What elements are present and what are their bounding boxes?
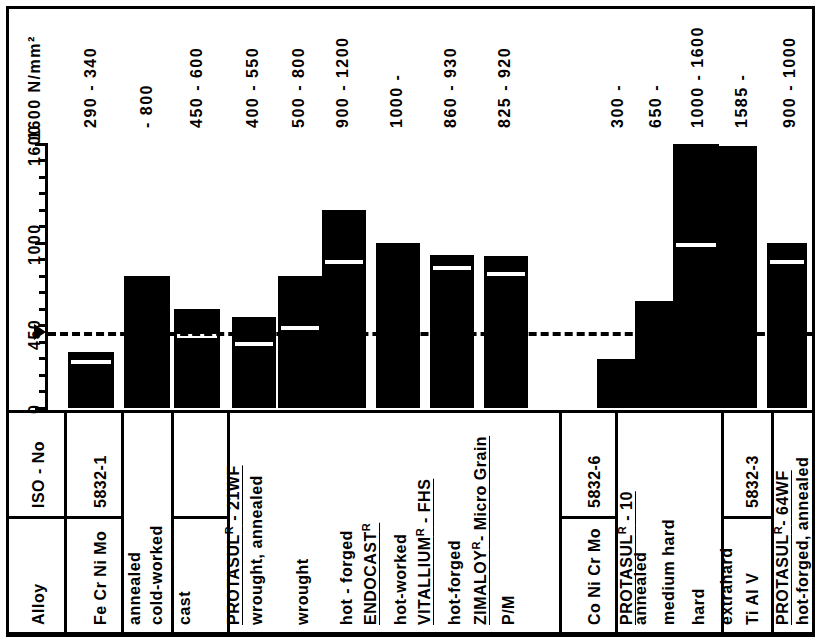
- y-axis-minor-tick: [39, 374, 48, 377]
- iso-number: 5832-3: [745, 455, 761, 508]
- bar: [597, 359, 635, 409]
- y-axis-minor-tick: [39, 357, 48, 360]
- table-col-divider: [171, 410, 174, 635]
- iso-number: 5832-1: [93, 455, 109, 508]
- bar: [673, 144, 719, 408]
- table-row-divider: [559, 516, 615, 519]
- bar-lower-bound-mark: [676, 243, 716, 247]
- bar: [635, 301, 673, 408]
- condition-label: hot-forged, annealed: [795, 457, 811, 625]
- bar: [767, 243, 807, 408]
- condition-label: hot-forged: [447, 540, 463, 625]
- brand-name: ENDOCASTR: [361, 523, 379, 625]
- condition-label: medium hard: [661, 519, 677, 625]
- y-axis-minor-tick: [39, 209, 48, 212]
- bar: [174, 309, 220, 408]
- condition-label: cast: [177, 591, 193, 625]
- y-axis-tick-label: 1600: [26, 124, 44, 166]
- bar: [322, 210, 366, 408]
- y-axis-minor-tick: [39, 291, 48, 294]
- condition-label: P/M: [501, 595, 517, 625]
- y-axis-minor-tick: [39, 176, 48, 179]
- condition-label: wrought: [295, 558, 311, 625]
- bar-lower-bound-mark: [71, 360, 111, 364]
- bar-lower-bound-mark: [487, 272, 525, 276]
- alloy-condition-table: ISO - NoAlloy5832-15832-65832-3Fe Cr Ni …: [9, 410, 812, 635]
- brand-name: PROTASULR - 21WF: [224, 465, 242, 625]
- iso-number: 5832-6: [587, 455, 603, 508]
- bar-lower-bound-mark: [433, 266, 471, 270]
- table-top-rule: [9, 410, 812, 413]
- table-bottom-rule: [9, 632, 812, 635]
- y-axis-minor-tick: [39, 390, 48, 393]
- condition-label: hot - forged: [339, 530, 355, 625]
- bar: [124, 276, 170, 408]
- alloy-name: Ti Al V: [745, 573, 761, 625]
- bar: [376, 243, 420, 408]
- table-col-divider: [121, 410, 124, 635]
- table-row-divider: [171, 516, 227, 519]
- bar-chart-plot: [48, 140, 813, 410]
- table-row-divider: [721, 516, 771, 519]
- row-header-iso-no: ISO - No: [31, 441, 47, 508]
- row-header-alloy: Alloy: [31, 583, 47, 625]
- alloy-name: Co Ni Cr Mo: [587, 528, 603, 625]
- y-axis-minor-tick: [39, 308, 48, 311]
- table-row-divider: [67, 516, 121, 519]
- y-axis-tick-label: 1000: [26, 223, 44, 265]
- condition-label: annealed: [633, 552, 649, 625]
- bar: [278, 276, 322, 408]
- bar-lower-bound-mark: [325, 260, 363, 264]
- y-axis-minor-tick: [39, 192, 48, 195]
- condition-label: extrahard: [719, 548, 735, 625]
- figure-root: 290 - 340- 800450 - 600400 - 550500 - 80…: [0, 0, 821, 643]
- bar: [719, 146, 757, 408]
- condition-label: hard: [691, 588, 707, 625]
- reference-marker-arrow: [34, 324, 46, 340]
- condition-label: annealed: [127, 552, 143, 625]
- y-axis-minor-tick: [39, 275, 48, 278]
- brand-name: ZIMALOYR- Micro Grain: [471, 436, 489, 625]
- header-col-divider: [64, 516, 67, 635]
- reference-line-450: [48, 332, 813, 336]
- brand-name: VITALLIUMR - FHS: [415, 479, 433, 625]
- bar-lower-bound-mark: [235, 342, 273, 346]
- condition-label: hot-worked: [393, 534, 409, 625]
- bar-lower-bound-mark: [281, 326, 319, 330]
- header-col-divider: [64, 410, 67, 516]
- bar-lower-bound-mark: [770, 260, 804, 264]
- table-col-divider: [559, 410, 562, 635]
- brand-name: PROTASULR- 64WF: [773, 470, 791, 625]
- bar: [232, 317, 276, 408]
- condition-label: wrought, annealed: [249, 475, 265, 625]
- condition-label: cold-worked: [149, 525, 165, 625]
- alloy-name: Fe Cr Ni Mo: [93, 531, 109, 625]
